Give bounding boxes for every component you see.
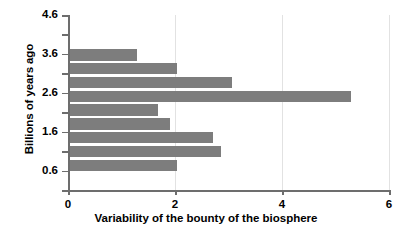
bar (70, 91, 352, 103)
y-tick-1.1 (62, 151, 68, 153)
chart-figure: Billions of years ago 4.63.62.61.60.6 02… (0, 0, 412, 242)
x-tick-6 (389, 190, 391, 195)
y-tick-2.1 (62, 112, 68, 114)
x-tick-2 (175, 190, 177, 195)
bar (70, 132, 214, 144)
y-tick-1.6 (62, 132, 68, 134)
y-tick-label-0.6: 0.6 (42, 164, 58, 176)
gridline-x-4 (282, 15, 283, 190)
x-axis-title: Variability of the bounty of the biosphe… (0, 212, 412, 224)
y-tick-0.6 (62, 171, 68, 173)
y-axis-title: Billions of years ago (23, 14, 35, 184)
y-tick-4.6 (62, 15, 68, 17)
y-tick-3.6 (62, 54, 68, 56)
y-tick-label-4.6: 4.6 (42, 8, 58, 20)
x-tick-label-4: 4 (262, 198, 302, 210)
x-tick-label-0: 0 (48, 198, 88, 210)
x-tick-0 (68, 190, 70, 195)
y-tick-2.6 (62, 93, 68, 95)
plot-area (68, 15, 389, 190)
x-tick-label-2: 2 (155, 198, 195, 210)
bar (70, 160, 177, 172)
y-tick-4.1 (62, 34, 68, 36)
bar (70, 146, 222, 158)
bar (70, 77, 232, 89)
bar (70, 49, 138, 61)
x-tick-4 (282, 190, 284, 195)
bar (70, 104, 158, 116)
bar (70, 118, 170, 130)
gridline-x-6 (389, 15, 390, 190)
y-tick-label-3.6: 3.6 (42, 47, 58, 59)
y-tick-3.1 (62, 73, 68, 75)
y-tick-label-2.6: 2.6 (42, 86, 58, 98)
y-tick-label-1.6: 1.6 (42, 125, 58, 137)
bar (70, 63, 177, 75)
x-tick-label-6: 6 (369, 198, 409, 210)
x-axis-spine (68, 190, 389, 192)
